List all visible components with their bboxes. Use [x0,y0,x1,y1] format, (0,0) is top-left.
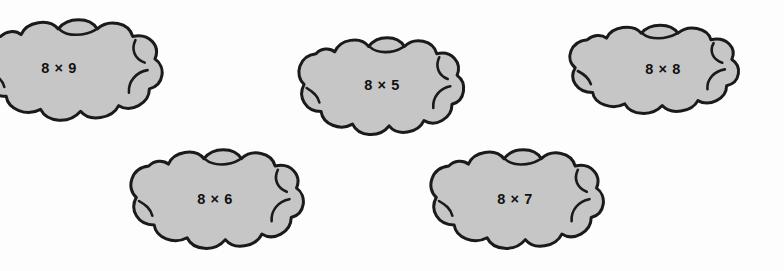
cloud-outline-icon [570,20,744,122]
cloud-shape-8x7[interactable]: 8 × 7 [431,144,609,258]
worksheet-canvas: 8 × 9 8 × 5 8 × 8 8 × 6 [0,0,784,271]
cloud-outline-icon [0,14,168,130]
cloud-outline-icon [299,32,469,144]
cloud-outline-icon [131,144,309,258]
cloud-outline-icon [431,144,609,258]
cloud-shape-8x5[interactable]: 8 × 5 [299,32,469,144]
cloud-shape-8x6[interactable]: 8 × 6 [131,144,309,258]
cloud-shape-8x9[interactable]: 8 × 9 [0,14,168,130]
cloud-shape-8x8[interactable]: 8 × 8 [570,20,744,122]
